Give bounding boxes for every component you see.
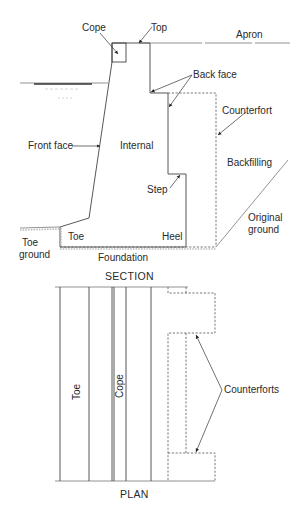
counterfort-plan-top xyxy=(168,287,215,481)
label-back-face: Back face xyxy=(193,69,237,80)
section-view: Cope Top Apron Back face Counterfort Fro… xyxy=(19,22,290,282)
counterfort-plan-bottom xyxy=(168,453,215,481)
counterfort-outline xyxy=(168,93,216,247)
counterforts-leader-2 xyxy=(196,390,222,452)
label-toe-ground-1: Toe xyxy=(22,237,39,248)
label-toe: Toe xyxy=(68,231,85,242)
cope-leader xyxy=(100,33,118,54)
label-backfilling: Backfilling xyxy=(227,157,272,168)
plan-title: PLAN xyxy=(120,488,149,500)
cope-block xyxy=(112,43,126,62)
label-original-ground-1: Original xyxy=(248,212,282,223)
label-step: Step xyxy=(147,184,168,195)
label-cope: Cope xyxy=(82,22,106,33)
plan-label-toe: Toe xyxy=(71,383,82,400)
plan-view: Toe Cope Counterforts PLAN xyxy=(55,287,279,500)
label-internal: Internal xyxy=(120,140,153,151)
label-apron: Apron xyxy=(236,29,263,40)
label-top: Top xyxy=(151,22,168,33)
label-toe-ground-2: ground xyxy=(19,249,50,260)
step-leader xyxy=(170,175,180,188)
quay-wall-diagram: Cope Top Apron Back face Counterfort Fro… xyxy=(0,0,298,519)
water-level xyxy=(20,83,108,98)
label-front-face: Front face xyxy=(28,140,73,151)
counterforts-leader-1 xyxy=(196,335,222,390)
plan-label-cope: Cope xyxy=(114,374,125,398)
label-heel: Heel xyxy=(162,231,183,242)
plan-label-counterforts: Counterforts xyxy=(224,384,279,395)
label-original-ground-2: ground xyxy=(248,224,279,235)
label-foundation: Foundation xyxy=(98,252,148,263)
label-counterfort: Counterfort xyxy=(222,105,272,116)
section-title: SECTION xyxy=(105,270,154,282)
